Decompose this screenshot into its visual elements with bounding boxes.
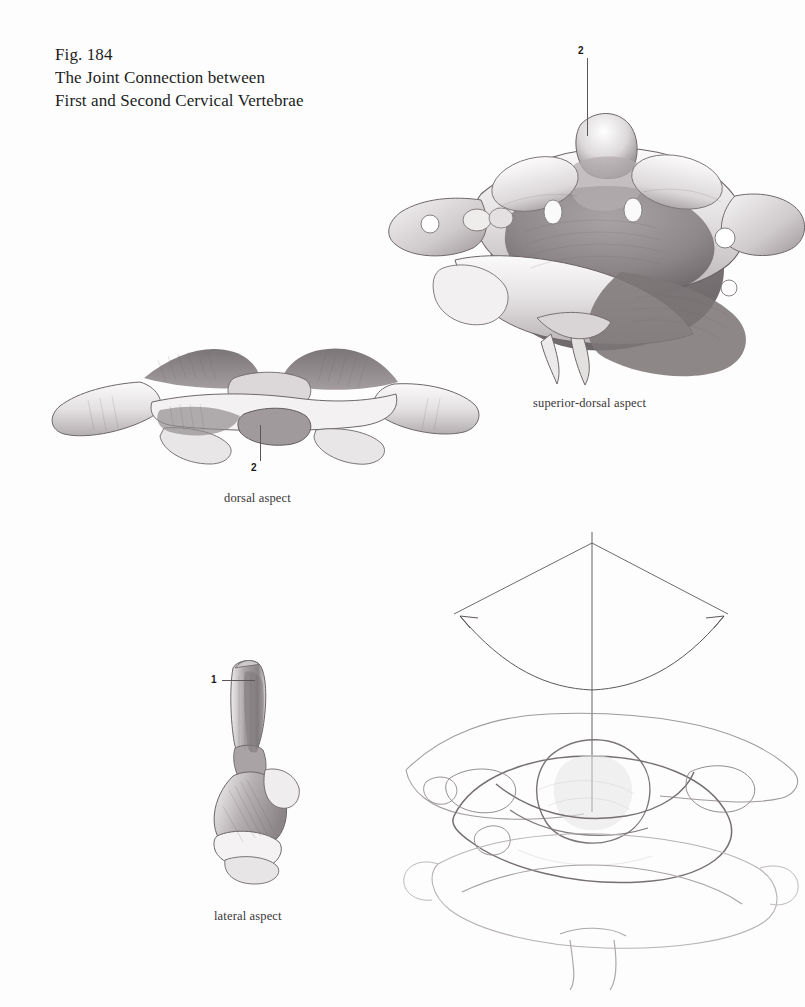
figure-dorsal	[48, 338, 483, 473]
leader-line-2-dorsal	[260, 425, 261, 461]
leader-line-2-superior	[587, 58, 588, 136]
caption-dorsal: dorsal aspect	[224, 491, 291, 506]
label-2-superior: 2	[578, 46, 584, 56]
title-line-1: The Joint Connection between	[55, 67, 304, 90]
arrowhead-right	[706, 616, 724, 628]
page-title: Fig. 184 The Joint Connection between Fi…	[55, 44, 304, 112]
rotation-line-drawing	[404, 713, 798, 990]
figure-number: Fig. 184	[55, 44, 304, 67]
caption-lateral: lateral aspect	[214, 909, 282, 924]
lateral-drawing	[214, 661, 299, 884]
caption-superior-dorsal: superior-dorsal aspect	[533, 396, 646, 411]
leader-line-1-lateral	[222, 680, 255, 681]
anatomical-plate-page: Fig. 184 The Joint Connection between Fi…	[0, 0, 805, 1007]
figure-rotation-diagram	[398, 520, 805, 990]
title-line-2: First and Second Cervical Vertebrae	[55, 90, 304, 113]
label-1-lateral: 1	[211, 675, 217, 685]
dorsal-drawing	[52, 348, 479, 464]
arrowhead-left	[460, 616, 478, 628]
figure-lateral	[193, 650, 323, 895]
label-2-dorsal: 2	[251, 463, 257, 473]
